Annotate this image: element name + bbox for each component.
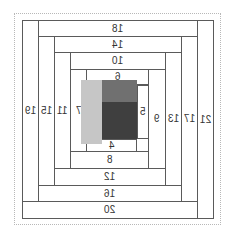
cell-label: 4 — [109, 141, 115, 151]
dark-block — [102, 102, 137, 139]
cell-label: 21 — [200, 115, 211, 125]
cell-8: 8 — [70, 151, 149, 169]
cell-11: 11 — [54, 52, 71, 169]
cell-17: 17 — [181, 36, 198, 202]
cell-13: 13 — [165, 52, 182, 186]
cell-9: 9 — [148, 69, 166, 169]
cell-20: 20 — [22, 201, 198, 219]
cell-label: 15 — [41, 106, 52, 116]
cell-14: 14 — [54, 36, 182, 53]
cell-12: 12 — [54, 168, 166, 186]
cell-label: 13 — [168, 114, 179, 124]
cell-label: 12 — [104, 172, 115, 182]
cell-label: 17 — [184, 114, 195, 124]
cell-label: 10 — [112, 56, 123, 66]
cell-5: 5 — [137, 85, 149, 139]
cell-label: 5 — [140, 107, 146, 117]
cell-label: 8 — [107, 155, 113, 165]
cell-19: 19 — [22, 20, 39, 202]
cell-label: 19 — [25, 106, 36, 116]
cell-label: 11 — [57, 106, 67, 116]
cell-label: 20 — [104, 205, 115, 215]
cell-21: 21 — [197, 20, 214, 219]
cell-16: 16 — [38, 185, 182, 202]
cell-label: 9 — [154, 114, 160, 124]
cell-15: 15 — [38, 36, 55, 186]
cell-10: 10 — [70, 52, 166, 70]
cell-label: 14 — [112, 40, 123, 50]
cell-18: 18 — [38, 20, 198, 37]
cell-label: 18 — [112, 24, 123, 34]
light-block — [81, 80, 102, 144]
cell-label: 16 — [104, 189, 115, 199]
medium-block — [102, 80, 137, 102]
